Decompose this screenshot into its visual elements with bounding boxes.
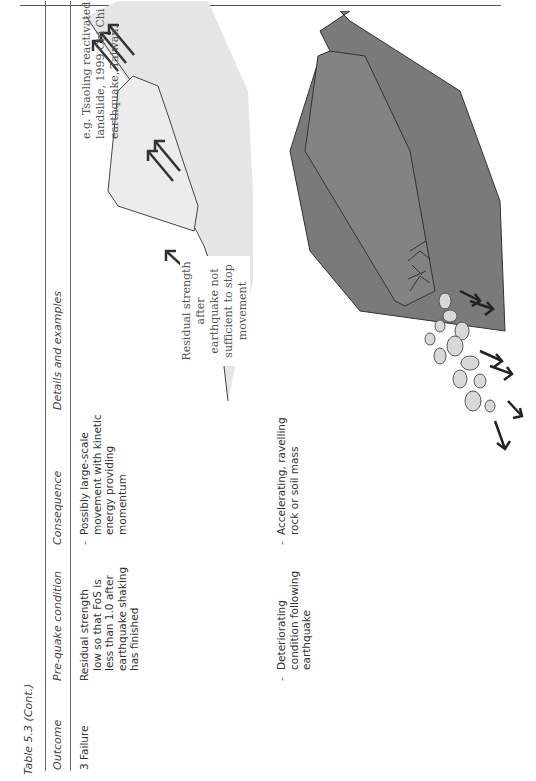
- pre-quake-condition-cell: Residual strength low so that FoS is les…: [78, 567, 141, 681]
- column-header-consequence: Consequence: [51, 471, 64, 545]
- bullet-dash: -: [275, 541, 287, 545]
- example-text: e.g. Tsaoling reactivated landslide, 199…: [80, 2, 122, 139]
- header-bottom-rule: [70, 1, 71, 771]
- text-line: earthquake shaking: [116, 567, 129, 681]
- text-line: has finished: [128, 567, 141, 681]
- text-line: earthquake: [300, 571, 313, 670]
- text-line: Residual strength: [78, 567, 91, 681]
- pre-quake-condition-cell: Deteriorating condition following earthq…: [275, 571, 313, 670]
- text-line: landslide, 1999 Chi Chi: [94, 2, 108, 139]
- text-line: momentum: [116, 414, 129, 535]
- text-line: less than 1.0 after: [103, 567, 116, 681]
- text-line: energy providing: [103, 414, 116, 535]
- text-line: movement: [236, 256, 250, 366]
- consequence-cell: Possibly large-scale movement with kinet…: [78, 414, 128, 535]
- text-line: Possibly large-scale: [78, 414, 91, 535]
- text-line: sufficient to stop: [222, 256, 236, 366]
- text-line: Deteriorating: [275, 571, 288, 670]
- bullet-dash: -: [78, 541, 90, 545]
- column-header-details: Details and examples: [51, 291, 64, 410]
- column-header-outcome: Outcome: [51, 720, 64, 770]
- text-line: Residual strength after: [180, 256, 208, 366]
- text-line: low so that FoS is: [91, 567, 104, 681]
- table-caption: Table 5.3 (Cont.): [22, 684, 35, 775]
- text-line: movement with kinetic: [91, 414, 104, 535]
- text-line: earthquake, Taiwan.: [108, 2, 122, 139]
- table-top-rule: [45, 1, 46, 771]
- rotated-table-page: Table 5.3 (Cont.) Outcome Pre-quake cond…: [0, 0, 536, 781]
- text-line: e.g. Tsaoling reactivated: [80, 2, 94, 139]
- bullet-dash: -: [275, 677, 287, 681]
- text-line: condition following: [288, 571, 301, 670]
- ravelling-slope-diagram: [280, 11, 530, 451]
- diagram-label: Residual strength after earthquake not s…: [180, 256, 250, 366]
- column-header-pre-quake-condition: Pre-quake condition: [51, 571, 64, 681]
- outcome-cell: 3 Failure: [78, 725, 91, 770]
- text-line: earthquake not: [208, 256, 222, 366]
